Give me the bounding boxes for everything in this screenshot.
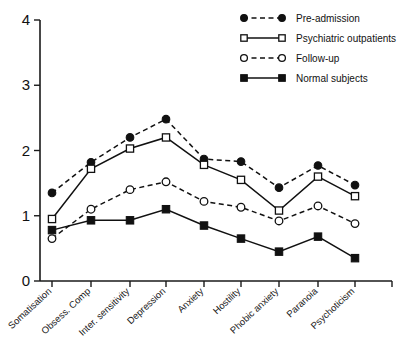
x-category-label: Anxiety	[175, 285, 205, 314]
legend-item[interactable]: Psychiatric outpatients	[241, 33, 396, 44]
data-point-marker	[162, 206, 169, 213]
data-point-marker	[351, 220, 359, 228]
data-point-marker	[162, 115, 170, 123]
data-point-marker	[314, 233, 321, 240]
data-point-marker	[241, 55, 248, 62]
data-point-marker	[200, 198, 208, 206]
data-point-marker	[241, 15, 248, 22]
y-tick-label: 0	[22, 272, 30, 289]
data-point-marker	[351, 254, 358, 261]
data-series-group	[48, 115, 359, 261]
data-point-marker	[275, 207, 282, 214]
data-point-marker	[237, 176, 244, 183]
chart-container: 01234 SomatisationObsess. CompInter. sen…	[0, 0, 399, 349]
category-labels: SomatisationObsess. CompInter. sensitivi…	[6, 285, 357, 338]
y-tick-label: 2	[22, 142, 30, 159]
data-point-marker	[279, 55, 286, 62]
data-point-marker	[275, 248, 282, 255]
chart-legend: Pre-admissionPsychiatric outpatientsFoll…	[241, 13, 396, 84]
data-point-marker	[275, 184, 283, 192]
data-point-marker	[279, 15, 286, 22]
data-point-marker	[126, 217, 133, 224]
data-point-marker	[200, 161, 207, 168]
series-pre-admission	[48, 115, 359, 196]
data-point-marker	[126, 186, 134, 194]
data-point-marker	[279, 35, 285, 41]
data-point-marker	[87, 205, 95, 213]
data-point-marker	[48, 235, 56, 243]
data-point-marker	[200, 222, 207, 229]
data-point-marker	[275, 217, 283, 225]
data-point-marker	[314, 162, 322, 170]
data-point-marker	[87, 217, 94, 224]
legend-item[interactable]: Follow-up	[241, 53, 340, 64]
y-tick-label: 3	[22, 76, 30, 93]
data-point-marker	[237, 203, 245, 211]
data-point-marker	[87, 165, 94, 172]
data-point-marker	[279, 75, 286, 82]
series-follow-up	[48, 178, 359, 242]
data-point-marker	[241, 35, 247, 41]
data-point-marker	[351, 181, 359, 189]
legend-item[interactable]: Pre-admission	[241, 13, 360, 24]
data-point-marker	[48, 189, 56, 197]
legend-label: Psychiatric outpatients	[296, 33, 396, 44]
data-point-marker	[48, 215, 55, 222]
y-tick-label: 4	[22, 11, 30, 28]
data-point-marker	[162, 134, 169, 141]
x-category-label: Paranoia	[284, 285, 320, 319]
data-point-marker	[351, 193, 358, 200]
data-point-marker	[48, 226, 55, 233]
data-point-marker	[162, 178, 170, 186]
legend-label: Follow-up	[296, 53, 340, 64]
legend-item[interactable]: Normal subjects	[241, 73, 368, 84]
data-point-marker	[241, 75, 248, 82]
x-category-label: Depression	[125, 285, 168, 326]
y-tick-label: 1	[22, 207, 30, 224]
x-category-label: Hostility	[211, 285, 243, 316]
data-point-marker	[314, 202, 322, 210]
data-point-marker	[126, 145, 133, 152]
x-axis	[40, 281, 392, 287]
series-normal-subjects	[48, 206, 358, 262]
data-point-marker	[237, 235, 244, 242]
data-point-marker	[314, 173, 321, 180]
y-axis: 01234	[22, 11, 40, 289]
legend-label: Normal subjects	[296, 73, 368, 84]
legend-label: Pre-admission	[296, 13, 360, 24]
psychological-symptom-profile-chart: 01234 SomatisationObsess. CompInter. sen…	[0, 0, 399, 349]
data-point-marker	[237, 158, 245, 166]
data-point-marker	[126, 134, 134, 142]
